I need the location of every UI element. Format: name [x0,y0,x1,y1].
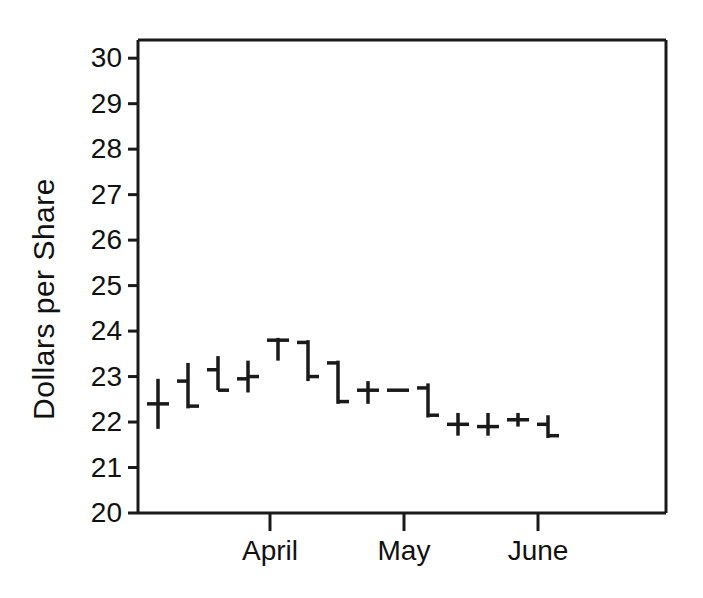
price-bar [477,413,499,436]
price-bar [147,379,169,429]
price-bars [147,338,559,438]
price-bar [207,356,229,390]
x-axis-ticks [270,513,538,531]
plot-frame [138,40,666,513]
price-bar [357,381,379,404]
chart-figure: Dollars per Share 2021222324252627282930… [0,0,703,598]
price-bar [447,413,469,436]
price-bar [417,383,439,417]
price-bar [267,338,289,361]
price-bar [507,413,529,427]
price-bar [297,340,319,381]
price-bar [237,361,259,393]
price-bar-plot [0,0,703,598]
price-bar [537,415,559,438]
price-bar [177,363,199,408]
price-bar [327,361,349,404]
